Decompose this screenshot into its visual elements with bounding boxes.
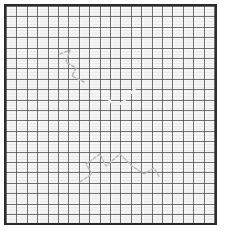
- figure-canvas: [0, 0, 226, 231]
- shape-layer: [6, 6, 215, 223]
- dark-gray-horizontal-bar: [64, 112, 166, 140]
- light-gray-upper-rectangle: [102, 40, 136, 85]
- graph-paper-plate: [4, 4, 217, 225]
- dark-gray-vertical-block: [90, 84, 145, 113]
